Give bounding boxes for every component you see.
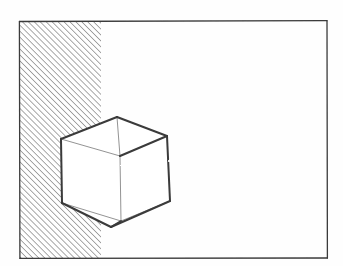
figure-container: Wireframe cube overlapping a hatched reg… — [0, 0, 343, 266]
frame-left-edge — [19, 22, 20, 259]
cube-edge-front-bottom-left-to-front-top-left — [61, 139, 62, 203]
frame-top-edge — [20, 21, 328, 22]
line-drawing-canvas — [0, 0, 343, 266]
